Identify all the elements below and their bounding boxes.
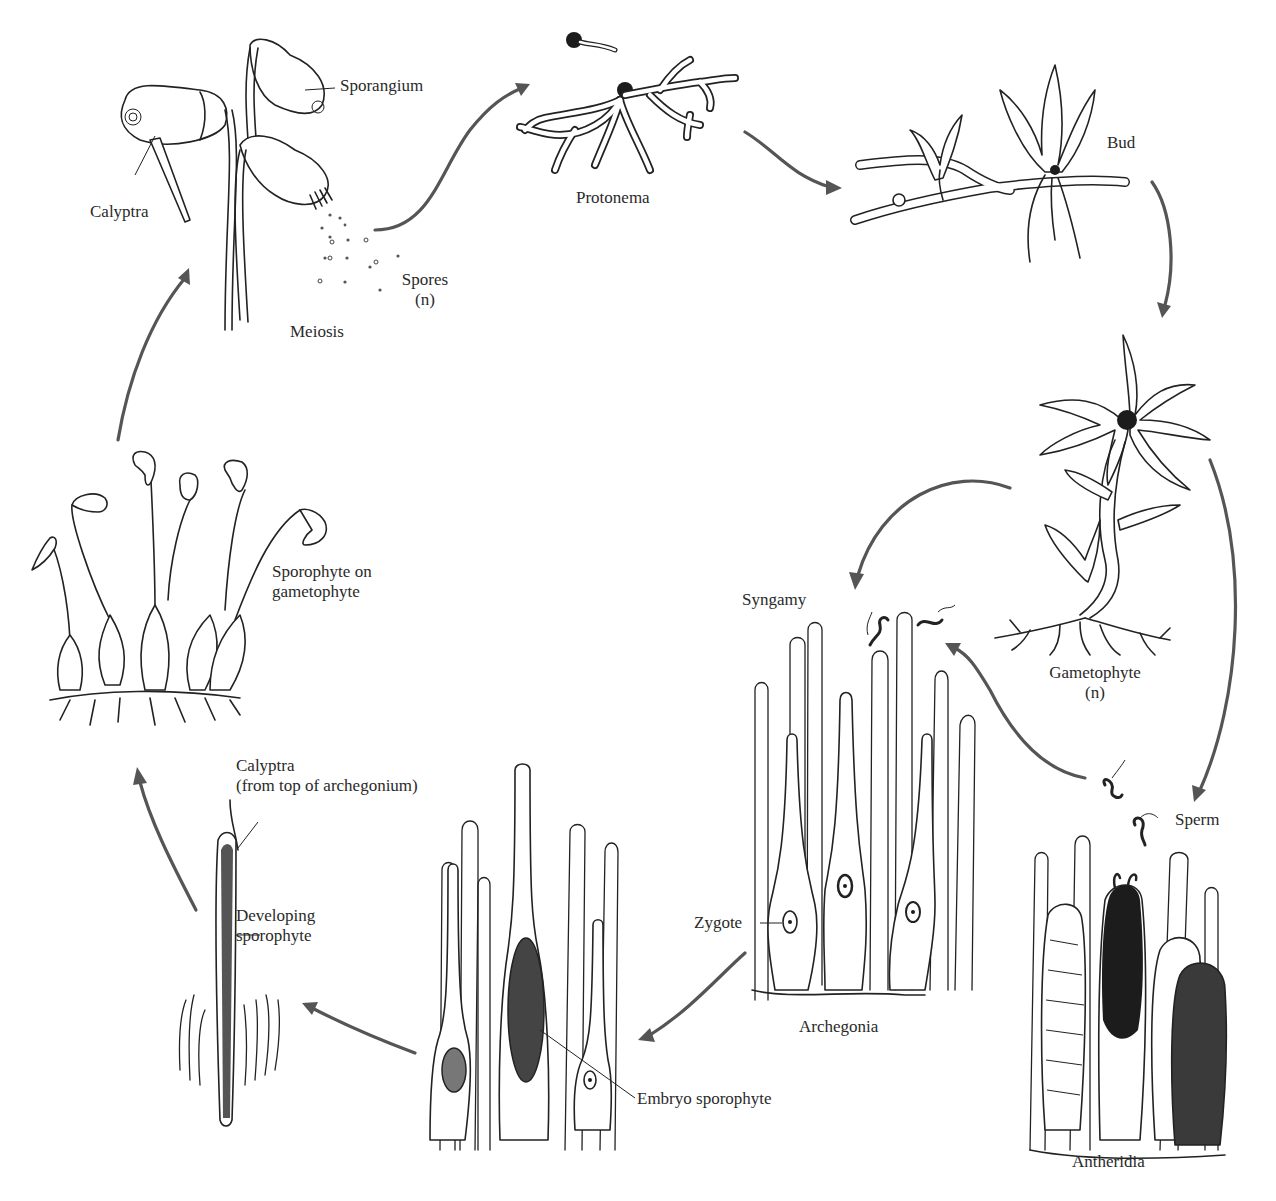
gametophyte-illustration bbox=[995, 335, 1210, 655]
bud-illustration bbox=[855, 65, 1125, 262]
label-protonema: Protonema bbox=[576, 188, 650, 208]
developing-sporophyte-illustration bbox=[179, 800, 279, 1126]
embryo-sporophyte-illustration bbox=[430, 764, 635, 1150]
protonema-illustration bbox=[520, 32, 735, 170]
label-meiosis: Meiosis bbox=[290, 322, 344, 342]
label-gametophyte-line1: Gametophyte bbox=[1030, 663, 1160, 683]
label-sporangium: Sporangium bbox=[340, 76, 423, 96]
label-bud: Bud bbox=[1107, 133, 1135, 153]
label-embryo-sporophyte: Embryo sporophyte bbox=[637, 1089, 772, 1109]
moss-life-cycle-diagram: Sporangium Calyptra Spores (n) Meiosis P… bbox=[0, 0, 1276, 1201]
label-sporophyte-on-gametophyte: Sporophyte on gametophyte bbox=[272, 562, 372, 602]
label-syngamy: Syngamy bbox=[742, 590, 806, 610]
label-sporophyte-on-line2: gametophyte bbox=[272, 582, 372, 602]
label-archegonia: Archegonia bbox=[799, 1017, 878, 1037]
label-gametophyte-line2: (n) bbox=[1030, 683, 1160, 703]
label-developing-sporophyte: Developing sporophyte bbox=[236, 906, 315, 946]
label-sporophyte-on-line1: Sporophyte on bbox=[272, 562, 372, 582]
label-calyptra-top: Calyptra bbox=[90, 202, 149, 222]
label-calyptra-bottom-line2: (from top of archegonium) bbox=[236, 776, 418, 796]
label-calyptra-bottom-line1: Calyptra bbox=[236, 756, 418, 776]
label-spores: Spores (n) bbox=[395, 270, 455, 310]
label-spores-line2: (n) bbox=[395, 290, 455, 310]
label-developing-line1: Developing bbox=[236, 906, 315, 926]
archegonia-illustration bbox=[752, 605, 975, 1000]
label-developing-line2: sporophyte bbox=[236, 926, 315, 946]
diagram-artwork bbox=[0, 0, 1276, 1201]
label-sperm: Sperm bbox=[1175, 810, 1219, 830]
label-zygote: Zygote bbox=[694, 913, 742, 933]
label-calyptra-bottom: Calyptra (from top of archegonium) bbox=[236, 756, 418, 796]
label-gametophyte: Gametophyte (n) bbox=[1030, 663, 1160, 703]
label-spores-line1: Spores bbox=[395, 270, 455, 290]
label-antheridia: Antheridia bbox=[1072, 1152, 1145, 1172]
